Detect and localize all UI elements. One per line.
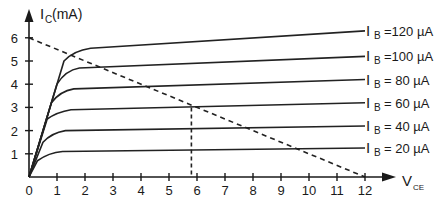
x-axis-arrow-icon [382, 173, 396, 182]
series-label-value: = 40 µA [384, 119, 430, 134]
transistor-output-characteristics-chart: 0123456789101112123456 I C (mA) V CE IB=… [0, 0, 440, 208]
series-labels: IB= 20 µAIB= 40 µAIB= 60 µAIB= 80 µAIB=1… [366, 22, 433, 158]
y-tick-label: 3 [11, 100, 18, 115]
series-label-value: = 20 µA [384, 141, 430, 156]
x-tick-label: 0 [25, 183, 32, 198]
axes [25, 9, 397, 182]
ib-curve [29, 56, 365, 177]
ib-curve [29, 103, 365, 177]
x-tick-label: 5 [165, 183, 172, 198]
x-label-main: V [402, 172, 412, 189]
series-label-value: = 80 µA [384, 73, 430, 88]
y-axis-arrow-icon [25, 9, 34, 22]
y-label-main: I [40, 5, 44, 22]
series-label-i: I [366, 117, 370, 134]
y-label-unit: (mA) [52, 6, 82, 22]
x-axis-label: V CE [402, 172, 424, 192]
series-label-sub: B [374, 55, 381, 66]
series-label-i: I [366, 47, 370, 64]
series-label-sub: B [374, 147, 381, 158]
series-label-sub: B [374, 79, 381, 90]
x-tick-label: 3 [109, 183, 116, 198]
x-label-sub: CE [413, 183, 424, 192]
chart-svg: 0123456789101112123456 I C (mA) V CE IB=… [0, 0, 440, 208]
series-label-i: I [366, 71, 370, 88]
series-label-value: =120 µA [384, 24, 433, 39]
x-tick-label: 7 [221, 183, 228, 198]
series-label-i: I [366, 22, 370, 39]
series-label-i: I [366, 94, 370, 111]
series-label-value: =100 µA [384, 49, 433, 64]
x-tick-label: 8 [249, 183, 256, 198]
series-label-value: = 60 µA [384, 96, 430, 111]
series-label-sub: B [374, 30, 381, 41]
x-tick-label: 11 [330, 183, 344, 198]
series-label-sub: B [374, 125, 381, 136]
y-tick-label: 1 [11, 147, 18, 162]
series-label-i: I [366, 139, 370, 156]
ib-curve [29, 148, 365, 177]
x-tick-label: 12 [358, 183, 372, 198]
y-tick-label: 6 [11, 31, 18, 46]
x-tick-label: 10 [302, 183, 316, 198]
y-tick-label: 4 [11, 77, 18, 92]
y-axis-label: I C (mA) [40, 5, 82, 25]
y-tick-label: 5 [11, 54, 18, 69]
ib-curves [29, 31, 365, 177]
x-tick-label: 6 [193, 183, 200, 198]
x-tick-label: 1 [53, 183, 60, 198]
x-tick-label: 4 [137, 183, 144, 198]
series-label-sub: B [374, 102, 381, 113]
y-tick-label: 2 [11, 124, 18, 139]
x-tick-label: 2 [81, 183, 88, 198]
x-tick-label: 9 [277, 183, 284, 198]
